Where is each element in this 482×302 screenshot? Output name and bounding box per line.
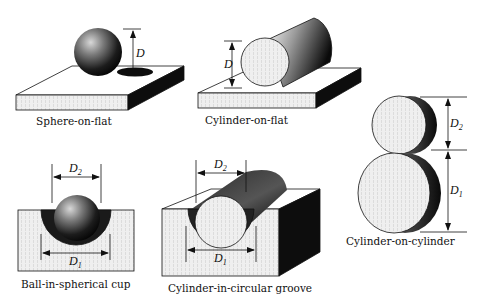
dimension-label-d2: D2	[68, 161, 82, 177]
dimension-label-d2: D2	[449, 116, 463, 132]
panel-sphere-on-flat: D Sphere-on-flat	[16, 28, 184, 127]
caption-sphere-on-flat: Sphere-on-flat	[36, 115, 113, 127]
dimension-label-d: D	[135, 46, 145, 60]
sphere	[74, 28, 122, 76]
caption-cylinder-on-cylinder: Cylinder-on-cylinder	[346, 235, 456, 247]
dimension-label-d: D	[223, 57, 233, 71]
sphere-shadow	[117, 68, 153, 77]
panel-cylinder-in-circular-groove: D2 D1 Cylinder-in-circular groove	[162, 157, 320, 294]
dimension-label-d2: D2	[213, 157, 227, 173]
caption-cylinder-on-flat: Cylinder-on-flat	[205, 114, 289, 126]
upper-cylinder	[372, 96, 437, 154]
caption-cylinder-in-circular-groove: Cylinder-in-circular groove	[168, 282, 312, 294]
panel-cylinder-on-cylinder: D2 D1 Cylinder-on-cylinder	[346, 96, 467, 247]
contact-geometries-figure: D Sphere-on-flat D Cylinder-on-flat	[0, 0, 482, 302]
panel-cylinder-on-flat: D Cylinder-on-flat	[198, 18, 361, 126]
panel-ball-in-spherical-cup: D2 D1 Ball-in-spherical cup	[18, 161, 134, 290]
figure-canvas: D Sphere-on-flat D Cylinder-on-flat	[0, 0, 482, 302]
lower-cylinder	[358, 153, 441, 233]
dimension-d: D	[123, 29, 145, 70]
ball	[54, 195, 100, 241]
caption-ball-in-spherical-cup: Ball-in-spherical cup	[21, 278, 131, 290]
dimension-label-d1: D1	[449, 183, 463, 199]
